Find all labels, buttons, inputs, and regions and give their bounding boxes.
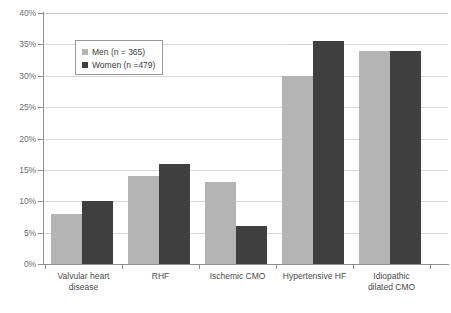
legend-entry-men: Men (n = 365) bbox=[82, 45, 157, 58]
x-label-line-1: Idiopathic bbox=[353, 271, 430, 282]
x-tick-mark-0 bbox=[45, 265, 46, 269]
y-tick-label-25: 25% bbox=[2, 102, 36, 112]
bar-women-ischemic-cmo bbox=[236, 226, 267, 264]
y-tick-label-0: 0% bbox=[2, 259, 36, 269]
y-axis-tick-labels: 40% 35% 30% 25% 20% 15% 10% 5% 0% bbox=[0, 0, 36, 313]
x-label-line-2: disease bbox=[45, 282, 122, 293]
legend-label-men: Men (n = 365) bbox=[92, 47, 145, 57]
x-label-hypertensive-hf: Hypertensive HF bbox=[276, 271, 353, 282]
x-tick-mark-1 bbox=[122, 265, 123, 269]
y-tick-label-20: 20% bbox=[2, 134, 36, 144]
y-axis-line bbox=[43, 12, 44, 265]
bar-women-rhf bbox=[159, 164, 190, 264]
x-tick-mark-5 bbox=[430, 265, 431, 269]
y-tick-label-10: 10% bbox=[2, 196, 36, 206]
bar-group-idiopathic-dilated-cmo bbox=[353, 13, 430, 264]
bar-women-hypertensive-hf bbox=[313, 41, 344, 264]
x-label-line-1: Valvular heart bbox=[45, 271, 122, 282]
plot-artifact-line bbox=[288, 44, 310, 45]
bar-chart-figure: 40% 35% 30% 25% 20% 15% 10% 5% 0% bbox=[0, 0, 451, 313]
y-tick-label-30: 30% bbox=[2, 71, 36, 81]
x-label-ischemic-cmo: Ischemic CMO bbox=[199, 271, 276, 282]
x-label-rhf: RHF bbox=[122, 271, 199, 282]
bar-men-rhf bbox=[128, 176, 159, 264]
x-label-line-1: Ischemic CMO bbox=[199, 271, 276, 282]
x-label-line-1: RHF bbox=[122, 271, 199, 282]
y-tick-label-5: 5% bbox=[2, 228, 36, 238]
legend-entry-women: Women (n =479) bbox=[82, 58, 157, 71]
y-tick-label-15: 15% bbox=[2, 165, 36, 175]
figure-caption bbox=[6, 305, 446, 313]
x-tick-mark-3 bbox=[276, 265, 277, 269]
bar-men-hypertensive-hf bbox=[282, 76, 313, 264]
chart-legend: Men (n = 365) Women (n =479) bbox=[75, 40, 163, 75]
bar-men-idiopathic-dilated-cmo bbox=[359, 51, 390, 264]
bar-men-valvular-heart-disease bbox=[51, 214, 82, 264]
legend-label-women: Women (n =479) bbox=[92, 60, 155, 70]
x-tick-mark-2 bbox=[199, 265, 200, 269]
x-axis-line bbox=[43, 264, 449, 265]
bar-women-idiopathic-dilated-cmo bbox=[390, 51, 421, 264]
bar-women-valvular-heart-disease bbox=[82, 201, 113, 264]
x-label-valvular-heart-disease: Valvular heart disease bbox=[45, 271, 122, 292]
y-tick-label-40: 40% bbox=[2, 8, 36, 18]
bar-group-ischemic-cmo bbox=[199, 13, 276, 264]
bar-men-ischemic-cmo bbox=[205, 182, 236, 264]
x-label-line-1: Hypertensive HF bbox=[276, 271, 353, 282]
legend-swatch-men-icon bbox=[82, 49, 88, 55]
bar-group-hypertensive-hf bbox=[276, 13, 353, 264]
y-tick-label-35: 35% bbox=[2, 39, 36, 49]
x-tick-mark-4 bbox=[353, 265, 354, 269]
x-label-idiopathic-dilated-cmo: Idiopathic dilated CMO bbox=[353, 271, 430, 292]
legend-swatch-women-icon bbox=[82, 62, 88, 68]
x-label-line-2: dilated CMO bbox=[353, 282, 430, 293]
